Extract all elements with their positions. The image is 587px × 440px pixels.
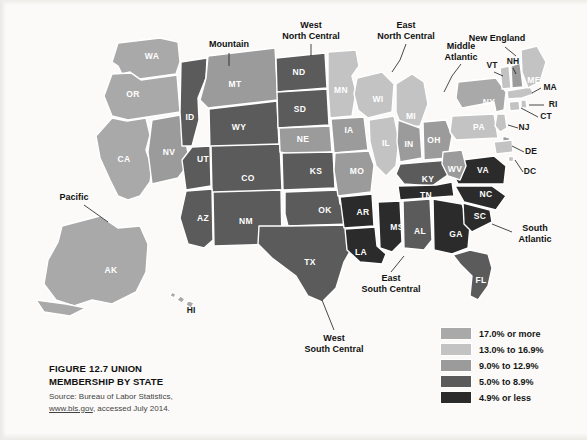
state-label-ny: NY (483, 97, 495, 107)
state-ak[interactable] (44, 216, 148, 306)
state-label-wi: WI (373, 94, 384, 104)
region-label-mountain: Mountain (209, 39, 249, 49)
state-label-nm: NM (239, 216, 253, 226)
state-label-ok: OK (318, 205, 332, 215)
map-legend: 17.0% or more13.0% to 16.9%9.0% to 12.9%… (440, 326, 544, 405)
legend-swatch (440, 359, 472, 372)
state-hi[interactable] (170, 292, 176, 298)
state-label-la: LA (355, 247, 367, 257)
state-leader-line (521, 108, 538, 117)
figure-title-line1: UNION (111, 363, 142, 374)
region-label-west-north-central: WestNorth Central (282, 20, 340, 41)
state-label-va: VA (477, 165, 489, 175)
state-label-ms: MS (390, 222, 403, 232)
state-leader-line (515, 160, 523, 172)
legend-swatch (440, 391, 472, 404)
legend-row: 17.0% or more (440, 326, 544, 341)
region-label-east-south-central: EastSouth Central (361, 273, 420, 294)
state-label-ri: RI (549, 99, 558, 109)
state-label-az: AZ (197, 213, 209, 223)
source-accessed: , accessed July 2014. (93, 404, 170, 413)
state-label-wv: WV (448, 164, 462, 174)
state-label-ct: CT (540, 111, 552, 121)
state-ks[interactable] (282, 152, 335, 190)
state-label-nh: NH (507, 56, 519, 66)
legend-label: 17.0% or more (479, 329, 541, 339)
legend-row: 5.0% to 8.9% (440, 374, 544, 389)
region-leader-line (492, 224, 512, 232)
state-ct[interactable] (509, 101, 520, 111)
state-label-ne: NE (297, 134, 309, 144)
region-leader-line (392, 44, 406, 72)
state-label-pa: PA (473, 122, 485, 132)
state-hi[interactable] (177, 296, 185, 303)
legend-row: 4.9% or less (440, 390, 544, 405)
state-label-sc: SC (474, 211, 486, 221)
state-label-ia: IA (344, 125, 353, 135)
region-label-new-england: New England (469, 33, 526, 43)
state-label-nc: NC (480, 189, 493, 199)
state-label-id: ID (185, 112, 194, 122)
region-leader-line (391, 256, 404, 272)
state-ny[interactable] (456, 78, 506, 112)
state-label-ky: KY (422, 174, 434, 184)
state-label-fl: FL (476, 275, 487, 285)
state-label-ak: AK (105, 265, 118, 275)
state-al[interactable] (403, 199, 432, 250)
source-url[interactable]: www.bls.gov (49, 404, 93, 413)
legend-row: 9.0% to 12.9% (440, 358, 544, 373)
state-label-ma: MA (543, 82, 556, 92)
state-dc[interactable] (508, 156, 514, 162)
state-label-mn: MN (334, 85, 348, 95)
state-md[interactable] (494, 140, 513, 154)
state-vt[interactable] (500, 66, 511, 89)
caption-title: FIGURE 12.7 UNION MEMBERSHIP BY STATE (49, 362, 279, 388)
legend-label: 9.0% to 12.9% (479, 361, 539, 371)
state-label-me: ME (527, 75, 540, 85)
state-label-de: DE (525, 146, 537, 156)
state-mt[interactable] (200, 48, 278, 108)
state-label-nv: NV (163, 147, 175, 157)
region-label-east-north-central: EastNorth Central (377, 20, 435, 41)
page-edge-top (0, 0, 587, 5)
legend-label: 4.9% or less (479, 393, 531, 403)
state-label-wa: WA (145, 51, 159, 61)
figure-title-line2: MEMBERSHIP BY STATE (49, 376, 163, 387)
state-leader-line (532, 88, 541, 93)
state-or[interactable] (104, 73, 180, 120)
region-leader-line (505, 47, 516, 56)
state-leader-line (508, 125, 518, 128)
state-label-dc: DC (524, 166, 536, 176)
state-label-mo: MO (350, 166, 364, 176)
state-label-oh: OH (427, 135, 440, 145)
state-ma[interactable] (507, 87, 534, 99)
state-mn[interactable] (328, 50, 359, 118)
figure-number: FIGURE 12.7 (49, 363, 108, 374)
page-edge-left (0, 0, 6, 440)
state-label-tx: TX (304, 257, 315, 267)
state-label-ga: GA (449, 229, 462, 239)
state-label-tn: TN (420, 190, 432, 200)
state-label-in: IN (404, 139, 413, 149)
legend-label: 5.0% to 8.9% (479, 377, 534, 387)
legend-swatch (440, 327, 472, 340)
state-co[interactable] (211, 144, 282, 194)
legend-row: 13.0% to 16.9% (440, 342, 544, 357)
state-label-nj: NJ (519, 122, 530, 132)
state-label-ca: CA (118, 154, 131, 164)
state-label-mt: MT (229, 79, 242, 89)
state-label-hi: HI (187, 305, 196, 315)
region-label-south-atlantic: SouthAtlantic (518, 223, 551, 244)
state-label-ut: UT (197, 154, 209, 164)
state-label-wy: WY (232, 122, 246, 132)
state-label-sd: SD (294, 104, 306, 114)
region-leader-line (322, 300, 334, 330)
legend-label: 13.0% to 16.9% (479, 345, 544, 355)
page-edge-bottom (0, 433, 587, 440)
state-ri[interactable] (521, 100, 527, 108)
state-label-ar: AR (357, 207, 370, 217)
figure-caption: FIGURE 12.7 UNION MEMBERSHIP BY STATE So… (49, 362, 279, 414)
source-text: Source: Bureau of Labor Statistics, (49, 392, 173, 401)
state-label-or: OR (126, 89, 139, 99)
region-label-middle-atlantic: MiddleAtlantic (444, 41, 477, 62)
